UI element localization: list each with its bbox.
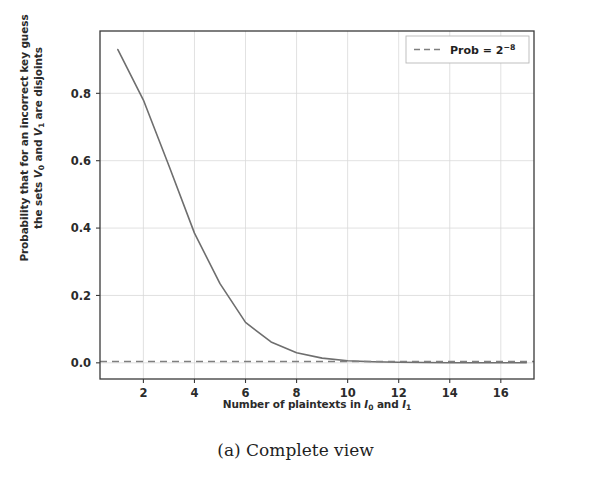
x-axis-label-sub-1: 1 xyxy=(406,403,411,412)
y-axis-tick-labels: 0.00.20.40.60.8 xyxy=(71,87,91,371)
figure-container: 246810121416 0.00.20.40.60.8 Prob = 2−8 … xyxy=(0,0,591,489)
y-tick-label: 0.4 xyxy=(71,221,91,235)
figure-caption: (a) Complete view xyxy=(0,440,591,460)
plot-background xyxy=(100,31,534,379)
y-tick-label: 0.6 xyxy=(71,154,91,168)
x-axis-label-prefix: Number of plaintexts in xyxy=(223,398,365,410)
chart-legend: Prob = 2−8 xyxy=(406,36,529,63)
y-tick-label: 0.2 xyxy=(71,289,91,303)
y-tick-label: 0.8 xyxy=(71,87,91,101)
chart-plot: 246810121416 0.00.20.40.60.8 Prob = 2−8 xyxy=(0,0,591,432)
y-tick-label: 0.0 xyxy=(71,356,91,370)
x-axis-label-middle: and xyxy=(373,398,402,410)
x-axis-label: Number of plaintexts in I0 and I1 xyxy=(100,398,534,412)
